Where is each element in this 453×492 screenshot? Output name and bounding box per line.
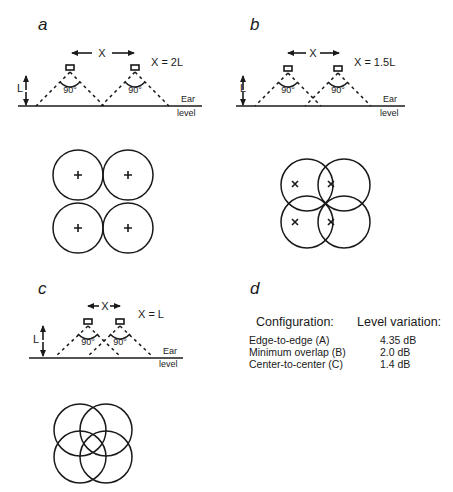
spacing-arrow: X <box>88 300 120 312</box>
spacing-arrow: X <box>288 47 339 59</box>
coverage-circles <box>54 404 132 483</box>
table-row: Edge-to-edge (A) 4.35 dB <box>249 334 416 346</box>
configuration-cell: Minimum overlap (B) <box>249 346 346 358</box>
configuration-cell: Edge-to-edge (A) <box>249 334 330 346</box>
loudspeaker-coverage-figure: a X X = 2L L 90° 90° Ear level <box>0 0 453 492</box>
spacing-equation: X = 2L <box>151 56 183 68</box>
height-arrow: L <box>33 326 43 356</box>
speaker-icon <box>334 66 342 71</box>
panel-a-letter: a <box>38 15 47 34</box>
level-variation-cell: 4.35 dB <box>380 334 416 346</box>
angle-label: 90° <box>113 337 127 347</box>
spacing-label: X <box>98 47 106 59</box>
ear-label: Ear <box>163 346 177 356</box>
table-header-level-variation: Level variation: <box>357 315 441 329</box>
level-label: level <box>159 359 178 369</box>
speaker-icon <box>84 319 92 324</box>
level-variation-cell: 1.4 dB <box>380 358 410 370</box>
ear-label: Ear <box>383 94 397 104</box>
panel-b: b X X = 1.5L L 90° 90° Ear level <box>236 15 405 248</box>
level-label: level <box>380 108 399 118</box>
level-variation-table: Configuration: Level variation: Edge-to-… <box>249 315 441 370</box>
panel-d: d Configuration: Level variation: Edge-t… <box>249 279 441 370</box>
speaker-icon <box>66 65 74 70</box>
angle-label: 90° <box>128 85 142 95</box>
speaker-icon <box>116 319 124 324</box>
speaker-icon <box>284 66 292 71</box>
spacing-label: X <box>309 47 317 59</box>
spacing-equation: X = 1.5L <box>354 56 395 68</box>
spacing-arrow: X <box>72 47 134 59</box>
panel-b-letter: b <box>250 15 259 34</box>
angle-label: 90° <box>81 337 95 347</box>
angle-label: 90° <box>331 85 345 95</box>
height-arrow: L <box>17 76 26 105</box>
panel-a: a X X = 2L L 90° 90° Ear level <box>17 15 202 253</box>
speaker-icon <box>131 65 139 70</box>
height-label: L <box>17 82 23 94</box>
panel-c: c X X = L L 90° 90° Ear level <box>29 279 183 483</box>
height-arrow: L <box>240 76 246 105</box>
height-label: L <box>240 82 246 94</box>
coverage-circles <box>53 150 153 253</box>
panel-d-letter: d <box>250 279 260 298</box>
level-variation-cell: 2.0 dB <box>380 346 410 358</box>
table-header-configuration: Configuration: <box>256 315 334 329</box>
table-row: Center-to-center (C) 1.4 dB <box>249 358 410 370</box>
angle-label: 90° <box>63 85 77 95</box>
panel-c-letter: c <box>38 279 47 298</box>
height-label: L <box>33 333 39 345</box>
coverage-circles <box>281 159 370 248</box>
table-row: Minimum overlap (B) 2.0 dB <box>249 346 410 358</box>
level-label: level <box>177 108 196 118</box>
spacing-equation: X = L <box>138 308 164 320</box>
ear-label: Ear <box>181 94 195 104</box>
configuration-cell: Center-to-center (C) <box>249 358 343 370</box>
center-x-marks <box>292 181 334 225</box>
spacing-label: X <box>101 300 109 312</box>
angle-label: 90° <box>281 85 295 95</box>
